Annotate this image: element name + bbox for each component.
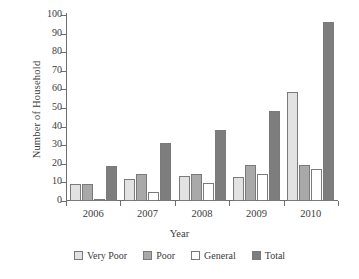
bar: [311, 169, 322, 201]
y-tick-label: 0: [57, 194, 62, 206]
y-tick-label: 40: [52, 120, 62, 132]
legend-item[interactable]: General: [191, 250, 236, 261]
x-category-label: 2007: [118, 208, 178, 219]
y-tick-label: 10: [52, 175, 62, 187]
x-tick-mark: [229, 201, 230, 206]
legend-label: Very Poor: [87, 250, 127, 261]
bar: [148, 192, 159, 201]
legend-label: General: [204, 250, 236, 261]
x-tick-mark: [120, 201, 121, 206]
bar-chart: Number of Household 01020304050607080901…: [0, 0, 359, 279]
y-axis-title: Number of Household: [31, 30, 42, 190]
bar: [179, 176, 190, 201]
x-category-label: 2010: [281, 208, 341, 219]
bar-group: [233, 15, 280, 201]
y-tick-label: 20: [52, 157, 62, 169]
bar: [106, 166, 117, 201]
bar: [257, 174, 268, 201]
bar: [287, 92, 298, 201]
x-category-label: 2008: [172, 208, 232, 219]
x-tick-mark: [338, 201, 339, 206]
y-axis-line: [66, 13, 67, 203]
y-tick-label: 50: [52, 101, 62, 113]
bar: [82, 184, 93, 201]
chart-legend: Very PoorPoorGeneralTotal: [0, 250, 359, 261]
legend-item[interactable]: Very Poor: [74, 250, 127, 261]
y-tick-label: 80: [52, 45, 62, 57]
y-tick-label: 100: [47, 8, 62, 20]
x-category-label: 2009: [226, 208, 286, 219]
legend-swatch-icon: [252, 251, 261, 260]
legend-item[interactable]: Total: [252, 250, 285, 261]
x-tick-mark: [284, 201, 285, 206]
bar: [233, 177, 244, 201]
x-category-label: 2006: [63, 208, 123, 219]
bar: [299, 165, 310, 201]
x-tick-mark: [66, 201, 67, 206]
legend-label: Total: [265, 250, 285, 261]
bar: [94, 199, 105, 201]
plot-area: 0102030405060708090100: [66, 15, 338, 201]
y-tick-label: 70: [52, 64, 62, 76]
x-tick-mark: [175, 201, 176, 206]
bar-group: [179, 15, 226, 201]
legend-label: Poor: [156, 250, 175, 261]
bar: [124, 179, 135, 201]
bar: [70, 184, 81, 201]
y-tick-label: 90: [52, 27, 62, 39]
bar: [136, 174, 147, 201]
bar: [323, 22, 334, 201]
legend-item[interactable]: Poor: [143, 250, 175, 261]
legend-swatch-icon: [191, 251, 200, 260]
legend-swatch-icon: [74, 251, 83, 260]
bar-group: [124, 15, 171, 201]
bar: [215, 130, 226, 201]
bar-group: [287, 15, 334, 201]
y-tick-label: 30: [52, 138, 62, 150]
legend-swatch-icon: [143, 251, 152, 260]
x-axis-title: Year: [0, 228, 359, 239]
bar: [160, 143, 171, 201]
y-tick-label: 60: [52, 82, 62, 94]
bar: [191, 174, 202, 201]
bar: [269, 111, 280, 201]
bar: [245, 165, 256, 201]
bar: [203, 183, 214, 201]
bar-group: [70, 15, 117, 201]
